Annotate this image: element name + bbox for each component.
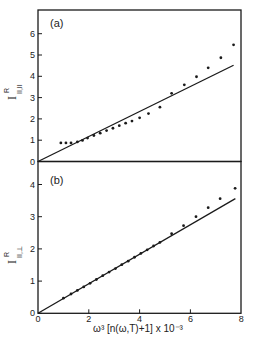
y-tick-label: 2 xyxy=(30,114,35,124)
data-point xyxy=(120,263,123,266)
panel-b-frame xyxy=(38,162,241,314)
data-point xyxy=(219,56,222,59)
panel-b-label: (b) xyxy=(50,174,63,186)
data-point xyxy=(207,66,210,69)
panel-b-x-ticks: 02468 xyxy=(35,309,243,324)
data-point xyxy=(232,43,235,46)
data-point xyxy=(195,75,198,78)
x-tick-label: 0 xyxy=(35,314,40,324)
data-point xyxy=(118,124,121,127)
y-tick-label: 2 xyxy=(30,244,35,254)
data-point xyxy=(62,297,65,300)
data-point xyxy=(112,127,115,130)
data-point xyxy=(159,241,162,244)
data-point xyxy=(159,106,162,109)
x-tick-label: 8 xyxy=(239,314,244,324)
x-tick-label: 6 xyxy=(188,314,193,324)
data-point xyxy=(133,256,136,259)
data-point xyxy=(183,83,186,86)
data-point xyxy=(124,122,127,125)
panel-b-y-ticks: 01234 xyxy=(30,180,42,319)
y-tick-label: 0 xyxy=(30,308,35,318)
panel-a-frame xyxy=(38,10,241,162)
data-point xyxy=(95,278,98,281)
data-point xyxy=(146,248,149,251)
data-point xyxy=(147,112,150,115)
fit-line xyxy=(38,65,234,161)
data-point xyxy=(195,215,198,218)
panel-b: 01234 02468 (b) I R II,⊥ xyxy=(3,162,244,325)
data-point xyxy=(234,187,237,190)
data-point xyxy=(170,92,173,95)
data-point xyxy=(108,271,111,274)
y-tick-label: 3 xyxy=(30,93,35,103)
y-tick-label: 3 xyxy=(30,212,35,222)
data-point xyxy=(65,142,68,145)
y-tick-label: 4 xyxy=(30,71,35,81)
data-point xyxy=(82,285,85,288)
data-point xyxy=(207,206,210,209)
panel-a-data-points xyxy=(59,43,235,144)
panel-b-fit-line xyxy=(38,199,235,314)
data-point xyxy=(101,274,104,277)
data-point xyxy=(59,142,62,145)
y-axis-a-sub: II,II xyxy=(16,84,23,94)
y-tick-label: 1 xyxy=(30,135,35,145)
y-axis-b-main: I xyxy=(5,260,19,264)
data-point xyxy=(76,289,79,292)
panel-a: 0123456 (a) I R II,II xyxy=(3,10,241,167)
fit-line xyxy=(38,199,235,314)
data-point xyxy=(127,260,130,263)
data-point xyxy=(170,232,173,235)
y-tick-label: 6 xyxy=(30,29,35,39)
panel-a-fit-line xyxy=(38,65,234,161)
y-axis-a-sup: R xyxy=(3,88,10,93)
figure: 0123456 (a) I R II,II 01234 02468 (b) I … xyxy=(0,0,255,348)
panel-a-y-axis-label: I R II,II xyxy=(3,84,23,100)
x-axis-label: ω³ [n(ω,T)+1] x 10⁻³ xyxy=(93,323,183,334)
data-point xyxy=(76,141,79,144)
data-point xyxy=(86,137,89,140)
data-point xyxy=(182,224,185,227)
y-tick-label: 0 xyxy=(30,157,35,167)
data-point xyxy=(70,293,73,296)
data-point xyxy=(138,116,141,119)
y-axis-a-main: I xyxy=(5,96,19,100)
data-point xyxy=(131,120,134,123)
y-tick-label: 1 xyxy=(30,276,35,286)
panel-a-label: (a) xyxy=(50,17,63,29)
y-tick-label: 5 xyxy=(30,50,35,60)
data-point xyxy=(92,134,95,137)
panel-a-y-ticks: 0123456 xyxy=(30,29,42,167)
data-point xyxy=(139,252,142,255)
y-tick-label: 4 xyxy=(30,180,35,190)
y-axis-b-sup: R xyxy=(3,252,10,257)
panel-b-data-points xyxy=(62,187,237,300)
panel-b-y-axis-label: I R II,⊥ xyxy=(3,246,23,264)
x-tick-label: 2 xyxy=(86,314,91,324)
data-point xyxy=(89,282,92,285)
data-point xyxy=(105,129,108,132)
data-point xyxy=(114,267,117,270)
data-point xyxy=(152,245,155,248)
data-point xyxy=(99,132,102,135)
data-point xyxy=(70,142,73,145)
data-point xyxy=(81,139,84,142)
y-axis-b-sub: II,⊥ xyxy=(16,246,23,258)
data-point xyxy=(219,197,222,200)
